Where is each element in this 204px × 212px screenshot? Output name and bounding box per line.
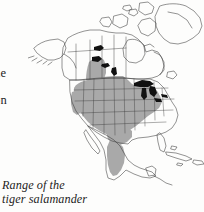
alaska-outline	[34, 39, 66, 60]
central-america	[154, 176, 172, 185]
body-text-fragment-1: he	[0, 66, 6, 81]
greenland-outline	[155, 4, 202, 44]
newfoundland-island	[167, 71, 177, 79]
range-shading-layer	[71, 57, 162, 176]
arctic-island-small-1	[129, 9, 138, 16]
hudson-bay-outline	[123, 39, 145, 63]
aleutian-chain	[28, 56, 52, 65]
lake-winnipeg	[111, 67, 117, 76]
hudson-bay-inlet	[144, 44, 154, 47]
greenland-interior-line	[168, 12, 192, 28]
bahamas-island	[171, 146, 177, 150]
arctic-island-baffin	[138, 18, 156, 36]
alaska-panhandle	[64, 54, 76, 68]
arctic-island-banks	[100, 17, 112, 27]
jamaica-island	[177, 163, 183, 166]
florida-peninsula	[157, 133, 166, 152]
labrador-coast	[154, 52, 164, 75]
cuba-island	[166, 152, 192, 161]
great-bear-lake	[94, 45, 104, 51]
arctic-island-ellesmere	[139, 2, 154, 15]
figure-page: he on	[0, 0, 204, 212]
baja-california	[84, 130, 100, 154]
lake-ontario	[161, 94, 168, 98]
hispaniola-island	[193, 160, 204, 165]
body-text-fragment-2: on	[0, 93, 7, 108]
figure-caption-line-2: tiger salamander	[2, 192, 87, 207]
figure-caption-line-1: Range of the	[2, 178, 65, 193]
arctic-island-victoria	[113, 14, 128, 28]
range-area-mexico	[107, 140, 125, 176]
north-america-range-map	[28, 0, 204, 186]
